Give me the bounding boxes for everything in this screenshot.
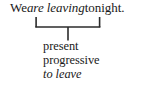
- sentence-highlighted-phrase: are leaving: [27, 0, 85, 15]
- sentence-line: Weare leavingtonight.: [10, 0, 158, 16]
- label-line-infinitive: to leave: [43, 67, 155, 81]
- sentence-before: We: [10, 0, 27, 15]
- label-stack: present progressive to leave: [43, 39, 155, 82]
- underbrace-bracket: [35, 17, 101, 41]
- sentence-after: tonight.: [85, 0, 125, 15]
- grammar-diagram: Weare leavingtonight. present progressiv…: [0, 0, 158, 90]
- label-line-progressive: progressive: [43, 53, 155, 67]
- label-line-present: present: [43, 39, 155, 53]
- bracket-svg: [35, 17, 101, 41]
